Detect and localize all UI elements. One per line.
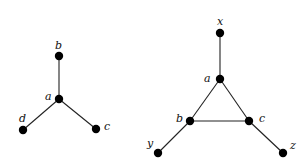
node-label-c: c <box>104 120 110 133</box>
node-y <box>154 149 162 157</box>
edge-a-c <box>59 99 96 129</box>
node-label-c: c <box>259 112 265 125</box>
node-a <box>216 75 224 83</box>
node-label-y: y <box>146 137 154 150</box>
node-label-x: x <box>217 15 224 28</box>
node-b <box>55 52 63 60</box>
node-label-d: d <box>19 112 26 125</box>
node-label-a: a <box>204 72 211 85</box>
edge-a-d <box>23 99 59 130</box>
node-d <box>19 126 27 134</box>
node-label-b: b <box>55 39 62 52</box>
node-a <box>55 95 63 103</box>
node-c <box>92 125 100 133</box>
node-label-z: z <box>289 139 296 152</box>
node-label-b: b <box>176 112 183 125</box>
edge-a-b <box>190 79 220 121</box>
star-graph: badc <box>19 39 110 134</box>
edge-b-y <box>158 121 190 153</box>
node-x <box>216 29 224 37</box>
node-z <box>279 149 287 157</box>
edge-c-z <box>249 121 283 153</box>
node-label-a: a <box>45 90 52 103</box>
edge-a-c <box>220 79 249 121</box>
triangle-graph: xabcyz <box>146 15 296 157</box>
node-b <box>186 117 194 125</box>
node-c <box>245 117 253 125</box>
graph-diagrams: badc xabcyz <box>0 0 307 167</box>
